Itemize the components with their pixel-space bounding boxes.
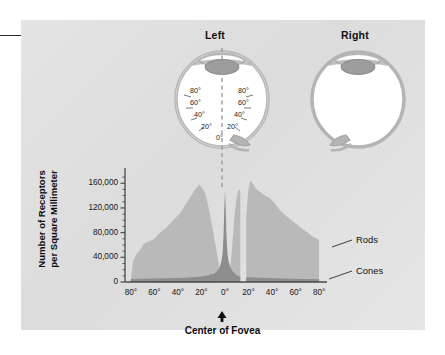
chart-areas xyxy=(131,181,319,282)
legend-leader-lines xyxy=(329,240,352,279)
figure-root: Left Right xyxy=(0,0,445,355)
y-tick-label: 160,000 xyxy=(60,178,118,187)
x-axis-title: Center of Fovea xyxy=(170,325,275,336)
legend-label-rods: Rods xyxy=(356,234,378,245)
y-tick-label: 0 xyxy=(60,277,118,286)
y-axis-title: Number of Receptors per Square Millimete… xyxy=(36,155,58,283)
y-tick-label: 120,000 xyxy=(60,203,118,212)
y-tick-label: 80,000 xyxy=(60,228,118,237)
y-tick-label: 40,000 xyxy=(60,252,118,261)
legend-label-cones: Cones xyxy=(356,265,383,276)
center-of-fovea-arrow xyxy=(218,311,227,322)
y-axis-title-line1: Number of Receptors xyxy=(36,155,48,283)
y-axis-title-line2: per Square Millimeter xyxy=(48,155,60,283)
x-tick-label: 80° xyxy=(305,288,333,297)
